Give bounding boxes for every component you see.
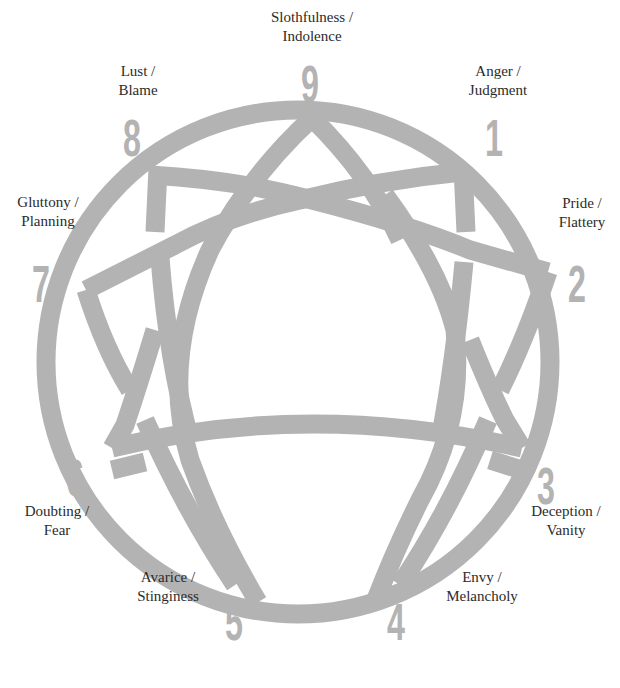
point-label-1-line2: Judgment (448, 81, 548, 100)
enneagram-figure: 9 1 2 3 4 5 6 7 8 Slothfulness / Indolen… (0, 0, 620, 688)
point-label-8-line2: Blame (108, 81, 168, 100)
point-number-6: 6 (63, 452, 88, 504)
point-label-5-line2: Stinginess (128, 587, 208, 606)
point-label-3: Deception / Vanity (518, 502, 614, 540)
point-label-8-line1: Lust / (108, 62, 168, 81)
point-number-4: 4 (384, 596, 409, 648)
point-label-9-line2: Indolence (262, 27, 362, 46)
point-label-6-line2: Fear (12, 521, 102, 540)
point-label-7-line2: Planning (8, 212, 88, 231)
point-number-9: 9 (298, 58, 323, 110)
tick-left (112, 462, 145, 470)
point-label-6: Doubting / Fear (12, 502, 102, 540)
point-label-7-line1: Gluttony / (8, 193, 88, 212)
point-label-6-line1: Doubting / (12, 502, 102, 521)
line-6-3 (112, 424, 522, 448)
line-7-6a (86, 290, 130, 390)
line-8-5a (155, 168, 158, 232)
point-label-8: Lust / Blame (108, 62, 168, 100)
line-1-4a (463, 168, 466, 232)
point-label-9: Slothfulness / Indolence (262, 8, 362, 46)
point-label-7: Gluttony / Planning (8, 193, 88, 231)
point-label-5: Avarice / Stinginess (128, 568, 208, 606)
point-number-1: 1 (482, 112, 507, 164)
point-label-3-line1: Deception / (518, 502, 614, 521)
point-label-2-line2: Flattery (546, 213, 618, 232)
point-label-2-line1: Pride / (546, 194, 618, 213)
point-label-3-line2: Vanity (518, 521, 614, 540)
point-label-9-line1: Slothfulness / (262, 8, 362, 27)
point-label-1: Anger / Judgment (448, 62, 548, 100)
point-label-1-line1: Anger / (448, 62, 548, 81)
point-number-7: 7 (29, 258, 54, 310)
point-number-5: 5 (222, 596, 247, 648)
tick-right (490, 460, 522, 470)
point-label-4-line1: Envy / (432, 568, 532, 587)
point-label-2: Pride / Flattery (546, 194, 618, 232)
point-number-8: 8 (120, 112, 145, 164)
point-number-2: 2 (565, 258, 590, 310)
point-label-4: Envy / Melancholy (432, 568, 532, 606)
point-label-4-line2: Melancholy (432, 587, 532, 606)
point-label-5-line1: Avarice / (128, 568, 208, 587)
